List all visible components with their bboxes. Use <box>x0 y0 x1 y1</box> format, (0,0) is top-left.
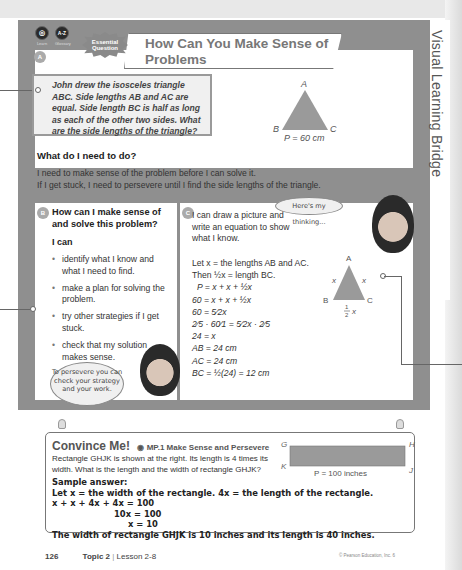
equation-step: 24 = x <box>192 330 342 342</box>
equation-step: BC = ½(24) = 12 cm <box>192 367 342 379</box>
glossary-label: Glossary <box>55 41 71 46</box>
page-footer: 126 Topic 2 | Lesson 2-8 © Pearson Educa… <box>45 552 445 561</box>
let-statement: Let x = the lengths AB and AC. <box>192 257 342 269</box>
section-a-marker: A <box>34 51 46 63</box>
then-statement: Then ½x = length BC. <box>192 269 342 281</box>
list-item: identify what I know and what I need to … <box>52 254 172 278</box>
practice-label: MP.1 Make Sense and Persevere <box>147 443 270 452</box>
convince-me-title: Convince Me! <box>52 439 130 453</box>
equation-step: AC = 24 cm <box>192 355 342 367</box>
equation-step: 60 = x + x + ½x <box>192 294 342 306</box>
callout-leader-line <box>401 364 462 365</box>
svg-text:H: H <box>409 440 415 449</box>
svg-text:G: G <box>281 440 287 449</box>
binder-clip-icon <box>396 419 404 429</box>
answer-line: x = 10 <box>52 519 408 530</box>
callout-leader-line <box>384 276 402 277</box>
svg-text:1: 1 <box>345 304 349 310</box>
badge-line-2: Question <box>92 45 118 51</box>
svg-text:P = 60 cm: P = 60 cm <box>284 133 325 143</box>
persevere-speech-bubble: To persevere you can check your strategy… <box>50 362 124 406</box>
what-do-i-need-text: I need to make sense of the problem befo… <box>37 167 407 191</box>
binder-clip-icon <box>58 419 66 429</box>
svg-text:J: J <box>408 466 414 475</box>
svg-text:x: x <box>331 276 337 285</box>
svg-text:C: C <box>330 124 337 134</box>
lesson-label: Lesson 2-8 <box>117 552 157 561</box>
list-item: try other strategies if I get stuck. <box>52 311 172 335</box>
header-icons: ◎ Learn A-Z Glossary <box>35 26 71 46</box>
answer-line: 10x = 100 <box>52 509 408 520</box>
section-b-marker: B <box>37 207 49 219</box>
what-do-i-need-heading: What do I need to do? <box>37 150 136 161</box>
bubble-text: Here's my thinking... <box>292 202 325 226</box>
practice-standard: ◉ MP.1 Make Sense and Persevere <box>137 443 269 452</box>
svg-text:2: 2 <box>345 312 349 318</box>
solution-steps: Let x = the lengths AB and AC. Then ½x =… <box>192 257 342 379</box>
topic-label: Topic 2 <box>83 552 110 561</box>
learn-button[interactable]: ◎ Learn <box>35 26 49 46</box>
title-line-1: How Can You Make Sense of Problems <box>145 36 333 68</box>
page-margin-top <box>0 0 462 18</box>
bubble-text: To persevere you can check your strategy… <box>52 368 122 393</box>
callout-leader-line <box>401 276 402 364</box>
equation-step: AB = 24 cm <box>192 342 342 354</box>
learn-label: Learn <box>35 41 49 46</box>
svg-text:A: A <box>346 254 352 263</box>
labeled-triangle-figure: A B C x x 1 2 x <box>322 250 392 330</box>
character-avatar <box>372 195 414 253</box>
list-item: make a plan for solving the problem. <box>52 283 172 307</box>
svg-text:P = 100 inches: P = 100 inches <box>314 469 367 478</box>
callout-dot <box>35 87 41 93</box>
glossary-button[interactable]: A-Z Glossary <box>55 26 71 46</box>
svg-text:x: x <box>351 307 357 316</box>
answer-line: x + x + 4x + 4x = 100 <box>52 498 408 509</box>
need-line-1: I need to make sense of the problem befo… <box>37 167 407 179</box>
svg-text:A: A <box>300 79 307 89</box>
svg-text:B: B <box>323 296 328 305</box>
svg-text:C: C <box>367 296 373 305</box>
problem-statement: John drew the isosceles triangle ABC. Si… <box>32 74 212 136</box>
section-c-intro: I can draw a picture and write an equati… <box>192 210 302 245</box>
svg-text:x: x <box>361 276 367 285</box>
i-can-heading: I can <box>52 237 73 247</box>
essential-question-title: How Can You Make Sense of Problems and P… <box>124 33 342 69</box>
equation-step: 2⁄5 · 60⁄1 = 5⁄2x · 2⁄5 <box>192 318 342 330</box>
equation-step: P = x + x + ½x <box>192 281 342 293</box>
problem-text: John drew the isosceles triangle ABC. Si… <box>52 80 201 136</box>
callout-dot <box>30 306 36 312</box>
callout-leader-line <box>0 309 30 310</box>
svg-text:K: K <box>281 462 287 471</box>
rectangle-ghjk-figure: G H J K P = 100 inches <box>280 440 420 480</box>
equation-step: 60 = 5⁄2x <box>192 306 342 318</box>
need-line-2: If I get stuck, I need to persevere unti… <box>37 179 407 191</box>
copyright: © Pearson Education, Inc. 6 <box>339 553 395 558</box>
isosceles-triangle-figure: A B C P = 60 cm <box>270 78 340 148</box>
thinking-speech-bubble: Here's my thinking... <box>275 197 343 215</box>
convince-me-question: Rectangle GHJK is shown at the right. It… <box>52 454 277 475</box>
learn-icon: ◎ <box>35 26 49 40</box>
answer-line: The width of rectangle GHJK is 10 inches… <box>52 530 408 541</box>
character-avatar <box>140 344 180 396</box>
answer-line: Let x = the width of the rectangle. 4x =… <box>52 488 408 499</box>
page-number: 126 <box>45 552 58 561</box>
glossary-icon: A-Z <box>55 26 69 40</box>
textbook-page: ◎ Learn A-Z Glossary A How Can You Make … <box>0 0 462 570</box>
visual-learning-bridge-label: Visual Learning Bridge <box>429 30 445 177</box>
svg-text:B: B <box>273 124 279 134</box>
section-b-title: How can I make sense of and solve this p… <box>52 206 172 230</box>
